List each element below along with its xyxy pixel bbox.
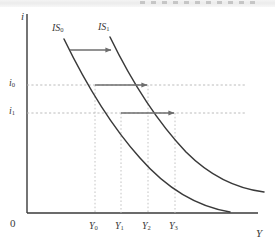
- curve-label-is0: IS0: [52, 23, 64, 33]
- x-tick-y1-sub: 1: [121, 224, 124, 231]
- origin-label: 0: [10, 218, 16, 229]
- y-tick-i1-sub: 1: [12, 109, 15, 116]
- x-tick-y0-sub: 0: [95, 224, 98, 231]
- x-tick-label-y2: Y2: [142, 221, 151, 231]
- x-tick-label-y1: Y1: [115, 221, 124, 231]
- x-tick-y1-base: Y: [115, 220, 121, 231]
- x-tick-y3-sub: 3: [175, 224, 178, 231]
- y-tick-label-i1: i1: [9, 106, 15, 116]
- plot-canvas: [0, 0, 275, 247]
- curve-is1: [110, 37, 264, 192]
- x-tick-label-y3: Y3: [169, 221, 178, 231]
- x-tick-y2-sub: 2: [148, 224, 151, 231]
- x-tick-y3-base: Y: [169, 220, 175, 231]
- curve-is0-sub: 0: [60, 26, 63, 33]
- curve-is0: [64, 39, 230, 212]
- x-tick-y0-base: Y: [89, 220, 95, 231]
- is-curve-figure: i Y 0 i0 i1 Y0 Y1 Y2 Y3 IS0 IS1: [0, 0, 275, 247]
- curve-is1-sub: 1: [106, 25, 109, 32]
- y-tick-i0-sub: 0: [12, 81, 15, 88]
- x-tick-label-y0: Y0: [89, 221, 98, 231]
- x-tick-y2-base: Y: [142, 220, 148, 231]
- y-axis-label: i: [21, 11, 24, 22]
- x-axis-label: Y: [256, 228, 262, 239]
- y-tick-label-i0: i0: [9, 78, 15, 88]
- curve-label-is1: IS1: [98, 22, 110, 32]
